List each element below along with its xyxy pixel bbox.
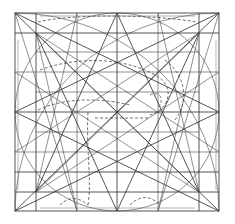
geometric-sketch <box>0 0 235 224</box>
sketch-drawing <box>0 0 235 224</box>
dashed-figure-outline <box>38 16 197 205</box>
